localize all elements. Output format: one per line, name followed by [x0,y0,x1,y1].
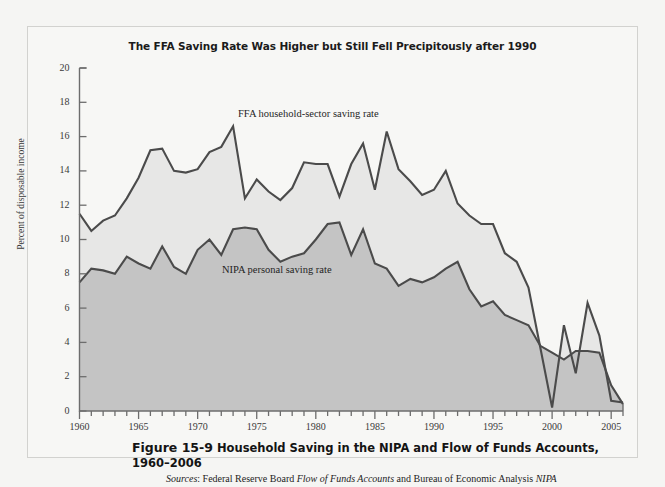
x-tick-1965: 1965 [117,421,161,432]
series-label-nipa: NIPA personal saving rate [222,264,332,275]
sources-italic-2: NIPA [536,473,557,484]
y-tick-2: 2 [44,370,70,381]
y-tick-14: 14 [44,164,70,175]
y-tick-8: 8 [44,267,70,278]
y-tick-6: 6 [44,302,70,313]
x-tick-1970: 1970 [176,421,220,432]
y-axis-label: Percent of disposable income [16,64,26,324]
figure-number: Figure 15-9 [132,440,213,455]
sources-prefix: Sources [166,473,197,484]
sources-italic-1: Flow of Funds Accounts [297,473,394,484]
y-tick-20: 20 [44,62,70,73]
series-label-ffa: FFA household-sector saving rate [238,108,379,119]
chart-fills [80,126,624,411]
figure-sources: Sources: Federal Reserve Board Flow of F… [166,473,664,484]
y-tick-18: 18 [44,96,70,107]
x-tick-1960: 1960 [58,421,102,432]
y-tick-12: 12 [44,199,70,210]
saving-rate-area-chart [0,0,665,487]
y-tick-0: 0 [44,405,70,416]
x-tick-2005: 2005 [589,421,633,432]
x-tick-1985: 1985 [353,421,397,432]
x-tick-2000: 2000 [530,421,574,432]
y-tick-4: 4 [44,336,70,347]
sources-text-2: and Bureau of Economic Analysis [394,473,536,484]
figure-page: The FFA Saving Rate Was Higher but Still… [0,0,665,487]
x-tick-1995: 1995 [471,421,515,432]
chart-plot-area: Percent of disposable income 20181614121… [0,0,665,487]
y-tick-16: 16 [44,130,70,141]
x-tick-1975: 1975 [235,421,279,432]
x-tick-1980: 1980 [294,421,338,432]
y-tick-10: 10 [44,233,70,244]
figure-caption: Figure 15-9 Household Saving in the NIPA… [132,441,632,470]
sources-text-1: Federal Reserve Board [203,473,297,484]
x-tick-1990: 1990 [412,421,456,432]
